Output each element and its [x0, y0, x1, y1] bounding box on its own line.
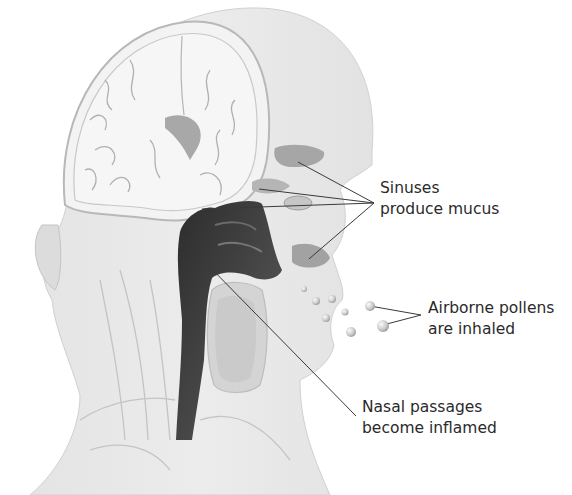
pollen-grain: [312, 297, 320, 305]
label-nasal-passages: Nasal passages become inflamed: [362, 397, 497, 439]
label-pollens: Airborne pollens are inhaled: [428, 298, 554, 340]
pollen-grain: [377, 320, 389, 332]
label-pollens-line2: are inhaled: [428, 319, 554, 340]
label-sinuses: Sinuses produce mucus: [380, 178, 499, 220]
head-anatomy-diagram: Sinuses produce mucus Airborne pollens a…: [0, 0, 572, 495]
leader-line-pollens: [370, 306, 421, 315]
label-pollens-line1: Airborne pollens: [428, 298, 554, 319]
pollen-grain: [322, 314, 330, 322]
label-sinuses-line1: Sinuses: [380, 178, 499, 199]
label-nasal-line1: Nasal passages: [362, 397, 497, 418]
pollen-grain: [328, 295, 336, 303]
pollen-grain: [346, 327, 356, 337]
brain: [64, 22, 269, 221]
pollen-grain: [365, 301, 375, 311]
pollen-grain: [342, 309, 349, 316]
leader-line-pollens: [383, 315, 421, 325]
pollen-grain: [301, 286, 307, 292]
mouth-cavity: [207, 282, 267, 392]
label-sinuses-line2: produce mucus: [380, 199, 499, 220]
label-nasal-line2: become inflamed: [362, 418, 497, 439]
